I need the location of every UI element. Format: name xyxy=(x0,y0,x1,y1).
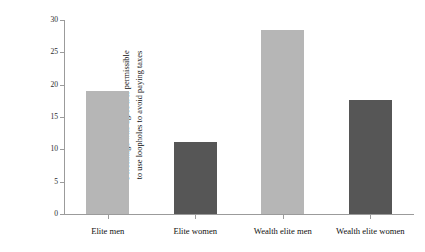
x-axis-line xyxy=(64,214,414,215)
x-tick-mark xyxy=(283,215,284,219)
x-category-label: Wealth elite men xyxy=(239,226,327,236)
x-tick-mark xyxy=(195,215,196,219)
x-category-label: Elite men xyxy=(64,226,152,236)
x-tick-mark xyxy=(370,215,371,219)
y-tick-label: 25 xyxy=(40,49,58,57)
y-tick-mark xyxy=(60,214,64,215)
bar-chart: Percentage who agree it is permissible t… xyxy=(0,0,425,252)
y-tick-label: 20 xyxy=(40,81,58,89)
bar xyxy=(261,30,304,214)
bar xyxy=(86,91,129,214)
y-tick-mark xyxy=(60,182,64,183)
y-tick-mark xyxy=(60,85,64,86)
x-category-label: Elite women xyxy=(152,226,240,236)
y-tick-mark xyxy=(60,52,64,53)
bar xyxy=(349,100,392,214)
x-tick-mark xyxy=(108,215,109,219)
y-tick-mark xyxy=(60,20,64,21)
y-tick-label: 30 xyxy=(40,16,58,24)
y-axis-line xyxy=(64,20,65,215)
y-tick-mark xyxy=(60,149,64,150)
y-tick-label: 0 xyxy=(40,210,58,218)
y-tick-mark xyxy=(60,117,64,118)
y-tick-label: 10 xyxy=(40,146,58,154)
x-category-label: Wealth elite women xyxy=(327,226,415,236)
bar xyxy=(174,142,217,214)
y-tick-label: 15 xyxy=(40,113,58,121)
y-tick-label: 5 xyxy=(40,178,58,186)
